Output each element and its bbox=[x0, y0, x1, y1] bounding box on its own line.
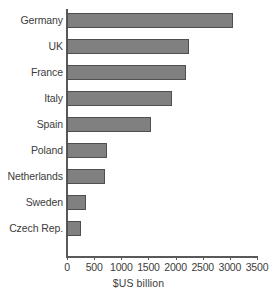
bar-row: Sweden bbox=[67, 194, 257, 220]
category-label: France bbox=[1, 64, 63, 80]
bar-row: Italy bbox=[67, 90, 257, 116]
category-label: Germany bbox=[1, 12, 63, 28]
bar-row: Czech Rep. bbox=[67, 220, 257, 246]
x-tick-label: 3000 bbox=[219, 261, 242, 273]
category-label: Spain bbox=[1, 116, 63, 132]
plot-area: GermanyUKFranceItalySpainPolandNetherlan… bbox=[67, 11, 257, 256]
bar bbox=[67, 117, 151, 132]
x-tick-mark bbox=[230, 256, 231, 260]
bar-row: Germany bbox=[67, 12, 257, 38]
bar-row: France bbox=[67, 64, 257, 90]
x-tick-mark bbox=[94, 256, 95, 260]
x-tick-label: 1000 bbox=[110, 261, 133, 273]
category-label: Poland bbox=[1, 142, 63, 158]
bar-row: Poland bbox=[67, 142, 257, 168]
bar bbox=[67, 195, 86, 210]
bar bbox=[67, 39, 189, 54]
bar bbox=[67, 91, 172, 106]
bar-chart: GermanyUKFranceItalySpainPolandNetherlan… bbox=[0, 0, 277, 300]
x-tick-label: 2000 bbox=[164, 261, 187, 273]
bar-row: Netherlands bbox=[67, 168, 257, 194]
x-tick-label: 0 bbox=[64, 261, 70, 273]
x-tick-label: 1500 bbox=[137, 261, 160, 273]
bar-row: Spain bbox=[67, 116, 257, 142]
category-label: Italy bbox=[1, 90, 63, 106]
x-tick-label: 3500 bbox=[246, 261, 269, 273]
x-tick-mark bbox=[176, 256, 177, 260]
category-label: Netherlands bbox=[1, 168, 63, 184]
bar bbox=[67, 65, 186, 80]
x-tick-label: 2500 bbox=[191, 261, 214, 273]
category-label: Sweden bbox=[1, 194, 63, 210]
category-label: UK bbox=[1, 38, 63, 54]
x-axis-title: $US billion bbox=[0, 277, 277, 289]
bar-row: UK bbox=[67, 38, 257, 64]
x-tick-mark bbox=[121, 256, 122, 260]
category-label: Czech Rep. bbox=[1, 220, 63, 236]
bar bbox=[67, 143, 107, 158]
bar bbox=[67, 169, 105, 184]
x-tick-mark bbox=[148, 256, 149, 260]
x-tick-mark bbox=[67, 256, 68, 260]
x-tick-mark bbox=[203, 256, 204, 260]
bar bbox=[67, 221, 81, 236]
x-tick-label: 500 bbox=[86, 261, 103, 273]
bar bbox=[67, 13, 233, 28]
x-tick-mark bbox=[257, 256, 258, 260]
